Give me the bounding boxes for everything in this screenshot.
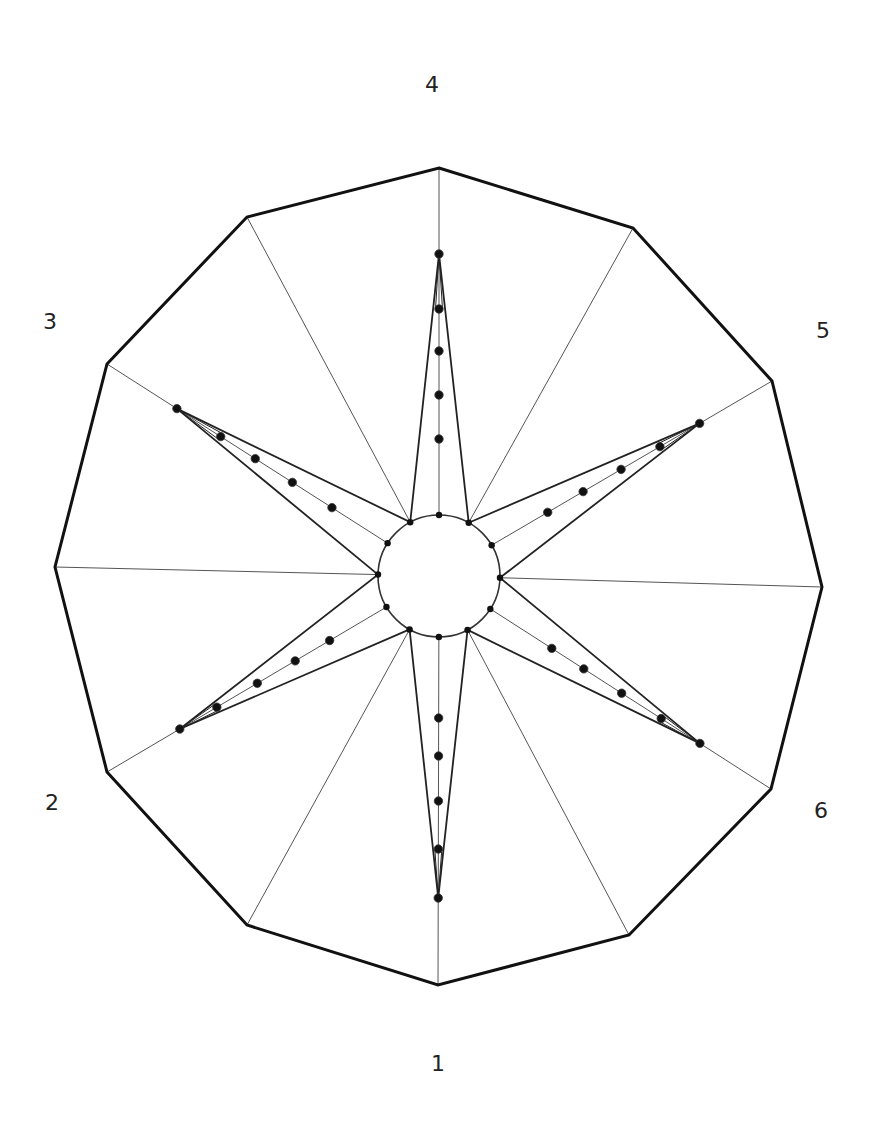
data-dot-axis-2-2: [213, 703, 221, 711]
data-dot-axis-3-3: [251, 454, 259, 462]
data-dot-axis-1-4: [434, 752, 442, 760]
spike-inner-line: [177, 409, 219, 440]
spike-inner-line: [658, 423, 699, 443]
circle-node-dot: [436, 512, 442, 518]
circle-node-dot: [466, 520, 472, 526]
data-dot-axis-5-2: [656, 442, 664, 450]
circle-node-dot: [488, 542, 494, 548]
data-dot-axis-4-3: [435, 347, 443, 355]
data-dot-axis-3-5: [328, 503, 336, 511]
data-dot-axis-6-3: [617, 689, 625, 697]
circle-node-dot: [406, 626, 412, 632]
data-dot-axis-3-4: [288, 478, 296, 486]
data-dot-axis-2-3: [253, 679, 261, 687]
spike-5: [469, 423, 700, 577]
axis-label-2: 2: [45, 792, 59, 814]
spike-inner-line: [663, 716, 700, 744]
axis-label-5: 5: [816, 320, 830, 342]
data-dot-axis-2-4: [291, 657, 299, 665]
data-dot-axis-1-3: [434, 797, 442, 805]
circle-node-dot: [383, 604, 389, 610]
circle-node-dot: [464, 627, 470, 633]
axis-label-3: 3: [43, 311, 57, 333]
circle-node-dot: [487, 606, 493, 612]
data-dot-axis-6-5: [548, 644, 556, 652]
data-dot-axis-2-1: [176, 725, 184, 733]
circle-node-dot: [384, 540, 390, 546]
data-dot-axis-2-5: [325, 636, 333, 644]
data-dot-axis-5-5: [544, 508, 552, 516]
data-dot-axis-6-1: [696, 739, 704, 747]
circle-node-dot: [497, 575, 503, 581]
axis-label-1: 1: [431, 1053, 445, 1075]
data-dot-axis-6-2: [657, 714, 665, 722]
data-dot-axis-5-3: [617, 465, 625, 473]
data-dot-axis-6-4: [580, 665, 588, 673]
circle-node-dot: [436, 634, 442, 640]
data-dot-axis-3-1: [173, 404, 181, 412]
spike-3: [177, 409, 410, 575]
data-dot-axis-5-1: [695, 419, 703, 427]
circle-node-dot: [407, 519, 413, 525]
data-dot-axis-3-2: [217, 432, 225, 440]
data-dot-axis-1-2: [434, 845, 442, 853]
data-dot-axis-5-4: [579, 487, 587, 495]
axis-label-4: 4: [425, 74, 439, 96]
data-dot-axis-4-2: [435, 305, 443, 313]
data-dot-axis-1-5: [434, 714, 442, 722]
data-dot-axis-1-1: [434, 894, 442, 902]
radial-star-diagram: [0, 0, 878, 1138]
inner-circle: [378, 515, 500, 637]
axis-label-6: 6: [814, 800, 828, 822]
data-dot-axis-4-1: [435, 250, 443, 258]
circle-node-dot: [375, 571, 381, 577]
data-dot-axis-4-4: [435, 391, 443, 399]
spike-inner-line: [659, 722, 700, 744]
spike-inner-line: [177, 409, 223, 434]
data-dot-axis-4-5: [435, 435, 443, 443]
